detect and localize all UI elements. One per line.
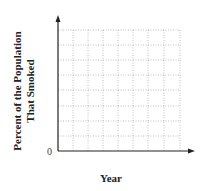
grid [58,30,180,151]
origin-label: 0 [47,146,52,157]
x-axis [58,149,195,154]
y-axis-arrow-icon [56,15,61,22]
y-axis-label: Percent of the Population That Smoked [2,26,46,156]
y-axis-label-line-1: Percent of the Population [11,31,24,150]
x-axis-label: Year [100,172,122,184]
y-axis-label-line-2: That Smoked [24,31,37,150]
y-axis [56,15,61,151]
x-axis-arrow-icon [188,149,195,154]
